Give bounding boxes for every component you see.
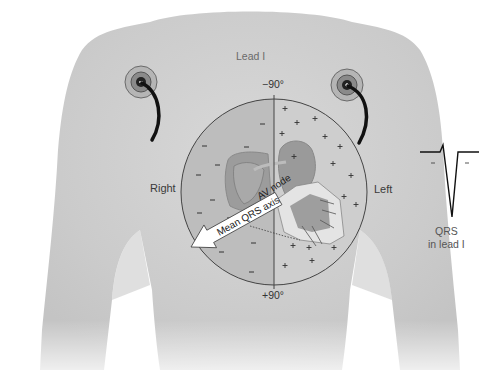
right-side-label: Right <box>150 182 176 194</box>
qrs-caption-line1: QRS <box>428 225 465 238</box>
lead-label: Lead I <box>236 50 265 62</box>
top-angle-label: −90° <box>262 78 284 90</box>
bottom-angle-label: +90° <box>262 289 284 301</box>
qrs-caption-line2: in lead I <box>428 238 465 251</box>
qrs-caption: QRS in lead I <box>428 225 465 251</box>
left-side-label: Left <box>374 183 392 195</box>
